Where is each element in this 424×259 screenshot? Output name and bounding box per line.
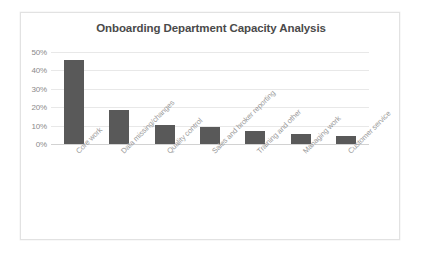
chart-title: Onboarding Department Capacity Analysis xyxy=(21,22,401,34)
plot-area: 0%10%20%30%40%50% Core workData missing/… xyxy=(51,52,369,144)
gridline xyxy=(51,144,369,145)
y-axis-tick-label: 20% xyxy=(32,103,47,112)
y-axis-tick-label: 40% xyxy=(32,66,47,75)
y-axis-tick-label: 10% xyxy=(32,121,47,130)
y-axis-tick-label: 30% xyxy=(32,84,47,93)
bar[interactable] xyxy=(64,60,84,144)
chart-container: Onboarding Department Capacity Analysis … xyxy=(20,12,400,240)
y-axis-tick-label: 50% xyxy=(32,48,47,57)
bar[interactable] xyxy=(109,110,129,144)
bar-slot xyxy=(51,52,96,144)
y-axis-tick-label: 0% xyxy=(36,140,47,149)
